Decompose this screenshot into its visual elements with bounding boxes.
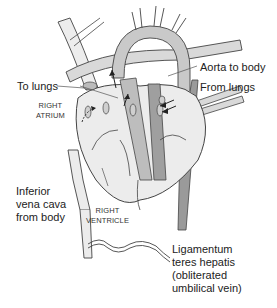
label-right-ventricle: RIGHT VENTRICLE (86, 206, 129, 226)
label-inferior-vena-cava: Inferior vena cava from body (16, 185, 66, 224)
superior-vena-cava (58, 18, 98, 90)
heart-circulation-diagram: To lungs Aorta to body From lungs RIGHT … (0, 0, 277, 308)
label-to-lungs: To lungs (17, 80, 58, 93)
label-aorta-to-body: Aorta to body (200, 61, 265, 74)
label-right-atrium: RIGHT ATRIUM (36, 101, 65, 121)
label-ligamentum-teres: Ligamentum teres hepatis (obliterated um… (172, 243, 242, 295)
label-from-lungs: From lungs (200, 81, 255, 94)
